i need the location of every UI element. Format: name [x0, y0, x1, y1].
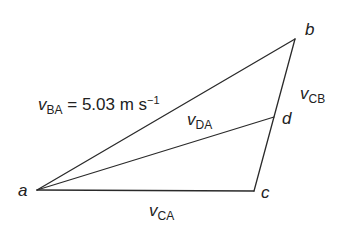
v-ba-subscript: BA — [47, 103, 63, 117]
v-ba-exponent: −1 — [147, 94, 160, 106]
edge-ad — [37, 117, 274, 190]
v-da-subscript: DA — [196, 118, 213, 132]
point-label-b: b — [305, 20, 314, 39]
v-ca-subscript: CA — [158, 209, 175, 223]
v-ba-value: = 5.03 m s — [63, 95, 148, 114]
label-v-da: vDA — [187, 110, 212, 132]
v-cb-subscript: CB — [309, 92, 326, 106]
label-v-ca: vCA — [149, 201, 174, 223]
velocity-diagram: a b c d vBA = 5.03 m s−1 vDA vCB vCA — [0, 0, 348, 232]
point-label-c: c — [261, 183, 270, 202]
label-v-ba: vBA = 5.03 m s−1 — [38, 94, 160, 117]
label-v-cb: vCB — [300, 84, 325, 106]
edge-ac — [37, 190, 254, 191]
point-label-a: a — [18, 181, 27, 200]
point-label-d: d — [282, 109, 292, 128]
edge-ab — [37, 39, 295, 190]
